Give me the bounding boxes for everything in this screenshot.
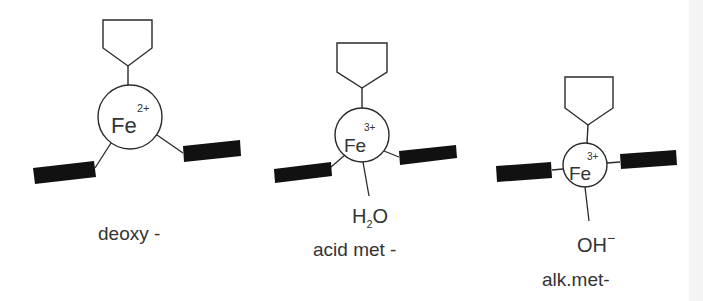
porphyrin-bar-right [620, 150, 677, 169]
structure-label: alk.met- [542, 269, 610, 290]
structure-label: acid met - [313, 239, 396, 260]
porphyrin-bar-right [399, 145, 457, 165]
porphyrin-bond-right [157, 135, 183, 153]
histidine-pentagon [337, 43, 387, 88]
structure-alk-met: Fe 3+ OH− alk.met- [496, 77, 677, 290]
porphyrin-bond-left [552, 169, 563, 170]
histidine-pentagon [565, 77, 613, 125]
porphyrin-bar-left [33, 161, 96, 184]
iron-symbol: Fe [111, 113, 137, 138]
porphyrin-bond-left [95, 143, 111, 168]
iron-charge: 2+ [137, 102, 150, 114]
histidine-pentagon [103, 20, 152, 66]
distal-bond [363, 162, 369, 196]
porphyrin-bond-left [331, 155, 345, 167]
structure-deoxy: Fe 2+ deoxy - [33, 20, 241, 244]
porphyrin-bar-left [274, 162, 332, 183]
iron-symbol: Fe [569, 163, 591, 184]
porphyrin-bond-right [607, 162, 620, 163]
distal-bond [585, 187, 589, 221]
heme-iron-diagram: Fe 2+ deoxy - Fe 3+ H2O acid met - Fe 3+ [0, 0, 703, 301]
sixth-ligand-hydroxide: OH− [577, 230, 615, 256]
iron-charge: 3+ [587, 151, 599, 162]
structure-acid-met: Fe 3+ H2O acid met - [274, 43, 457, 260]
iron-symbol: Fe [344, 135, 366, 156]
proximal-bond [587, 125, 588, 143]
sixth-ligand-water: H2O [352, 205, 388, 230]
porphyrin-bond-right [384, 151, 399, 157]
porphyrin-bar-left [496, 162, 552, 182]
iron-charge: 3+ [364, 122, 376, 133]
porphyrin-bar-right [183, 140, 241, 162]
structure-label: deoxy - [98, 223, 160, 244]
